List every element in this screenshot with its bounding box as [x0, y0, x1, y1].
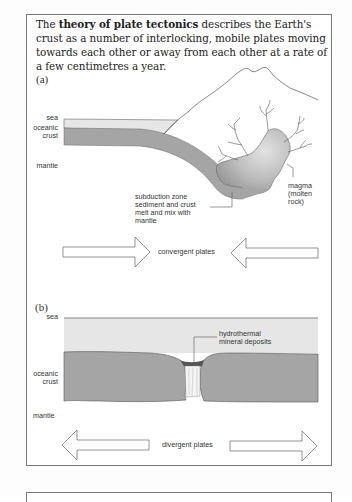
- hydrothermal-label-2: mineral deposits: [219, 338, 271, 346]
- divergent-plates-caption: divergent plates: [162, 441, 213, 449]
- panel-a-mantle-label: mantle: [22, 162, 58, 170]
- panel-b-sea-label: sea: [22, 313, 58, 321]
- magma-label-3: rock): [288, 198, 304, 206]
- subduction-label-4: mantle: [135, 217, 157, 225]
- panel-b-crust-label: crust: [20, 378, 58, 386]
- panel-a-crust-label: crust: [22, 132, 58, 140]
- panel-b-sea: [64, 318, 318, 353]
- panel-a-magma: [214, 129, 290, 199]
- panel-b-mantle-label: mantle: [33, 412, 55, 420]
- convergent-plates-caption: convergent plates: [158, 248, 215, 256]
- panel-a-sea-label: sea: [22, 114, 58, 122]
